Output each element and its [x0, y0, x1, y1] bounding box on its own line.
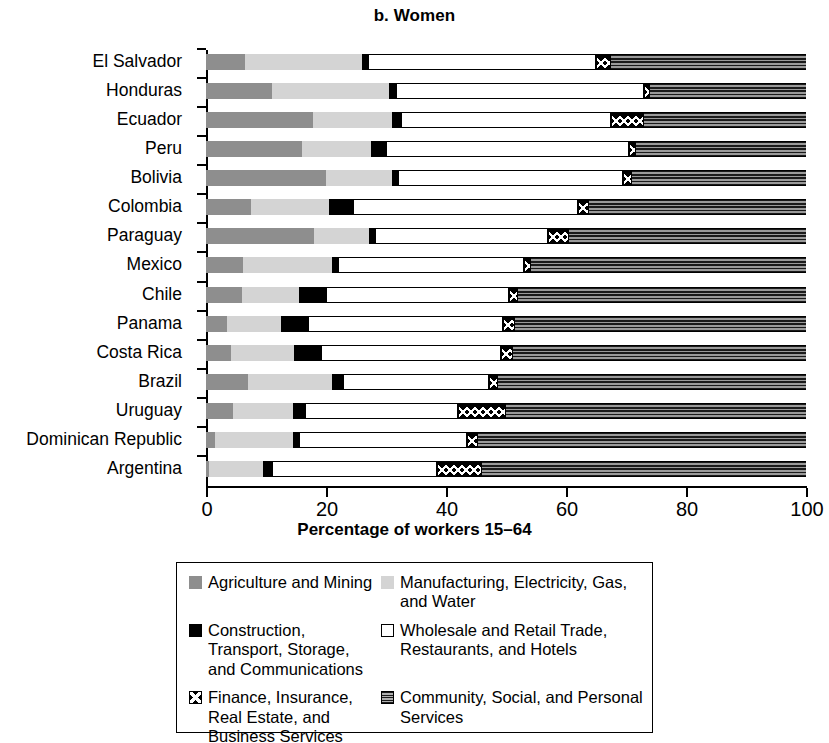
bar-row [206, 83, 806, 99]
y-axis-label-chile: Chile [142, 286, 182, 304]
bar-segment-manu [227, 316, 281, 332]
x-axis-tick [446, 488, 448, 497]
bar-segment-whole [321, 345, 501, 361]
legend-label: Community, Social, and Personal Services [400, 688, 643, 727]
y-axis-tick [197, 455, 206, 457]
bar-segment-cons [392, 112, 401, 128]
bar-segment-whole [272, 461, 437, 477]
bar-segment-fin [437, 461, 482, 477]
bar-segment-comm [611, 54, 806, 70]
y-axis-label-dominican-republic: Dominican Republic [26, 431, 182, 449]
bar-segment-fin [509, 287, 518, 303]
bar-segment-comm [478, 432, 806, 448]
legend-swatch-fin-icon [189, 691, 202, 704]
bar-segment-agri [206, 374, 248, 390]
bar-segment-agri [206, 170, 326, 186]
legend-swatch-agri-icon [189, 576, 202, 589]
legend-item-agri: Agriculture and Mining [189, 573, 375, 612]
bar-segment-comm [569, 228, 806, 244]
bar-segment-agri [206, 316, 227, 332]
bar-segment-manu [314, 228, 369, 244]
bar-segment-fin [623, 170, 632, 186]
legend-label: Finance, Insurance, Real Estate, and Bus… [208, 688, 375, 743]
bar-segment-whole [396, 83, 644, 99]
bar-segment-comm [518, 287, 806, 303]
legend-item-whole: Wholesale and Retail Trade, Restaurants,… [381, 621, 643, 679]
legend-swatch-cons-icon [189, 624, 202, 637]
bar-segment-manu [251, 199, 329, 215]
y-axis-label-brazil: Brazil [138, 373, 182, 391]
legend-item-fin: Finance, Insurance, Real Estate, and Bus… [189, 688, 375, 743]
bar-row [206, 228, 806, 244]
bar-row [206, 287, 806, 303]
y-axis-label-costa-rica: Costa Rica [96, 344, 182, 362]
y-axis-label-colombia: Colombia [108, 198, 182, 216]
x-axis-tick [806, 488, 808, 497]
y-axis-tick [197, 193, 206, 195]
bar-segment-comm [506, 403, 806, 419]
y-axis-tick [197, 164, 206, 166]
bar-row [206, 345, 806, 361]
bar-segment-manu [272, 83, 389, 99]
bar-segment-agri [206, 432, 215, 448]
bar-segment-manu [313, 112, 392, 128]
legend-item-comm: Community, Social, and Personal Services [381, 688, 643, 743]
bar-segment-comm [513, 345, 806, 361]
chart-figure: b. Women El SalvadorHondurasEcuadorPeruB… [0, 0, 829, 743]
bar-segment-fin [524, 257, 531, 273]
bar-row [206, 374, 806, 390]
bar-row [206, 54, 806, 70]
y-axis-tick [197, 251, 206, 253]
bar-segment-cons [329, 199, 353, 215]
y-axis-tick [197, 397, 206, 399]
bar-segment-manu [302, 141, 371, 157]
bar-segment-agri [206, 112, 313, 128]
legend-label: Manufacturing, Electricity, Gas, and Wat… [400, 573, 643, 612]
bar-segment-agri [206, 141, 302, 157]
x-axis-tick [566, 488, 568, 497]
bar-segment-manu [245, 54, 362, 70]
bar-row [206, 461, 806, 477]
bar-segment-manu [243, 257, 332, 273]
bar-segment-agri [206, 403, 233, 419]
bar-segment-whole [375, 228, 548, 244]
bar-row [206, 112, 806, 128]
bar-segment-cons [263, 461, 272, 477]
chart-title: b. Women [0, 6, 829, 26]
y-axis-label-peru: Peru [145, 140, 182, 158]
bar-segment-agri [206, 345, 231, 361]
bar-segment-cons [371, 141, 386, 157]
y-axis-tick [197, 339, 206, 341]
bar-row [206, 257, 806, 273]
bar-segment-comm [644, 112, 806, 128]
bar-row [206, 170, 806, 186]
bar-segment-manu [209, 461, 263, 477]
bar-segment-whole [338, 257, 524, 273]
bar-segment-whole [386, 141, 629, 157]
x-axis-tick-label: 0 [201, 498, 212, 521]
y-axis-label-mexico: Mexico [127, 256, 182, 274]
bar-segment-manu [233, 403, 293, 419]
y-axis-label-paraguay: Paraguay [107, 227, 182, 245]
bar-segment-agri [206, 228, 314, 244]
y-axis-tick [197, 368, 206, 370]
bar-segment-manu [326, 170, 392, 186]
legend-item-manu: Manufacturing, Electricity, Gas, and Wat… [381, 573, 643, 612]
bar-segment-agri [206, 199, 251, 215]
y-axis-tick [197, 310, 206, 312]
legend-label: Agriculture and Mining [208, 573, 372, 592]
bar-segment-fin [467, 432, 478, 448]
bar-segment-fin [596, 54, 611, 70]
y-axis-tick [197, 281, 206, 283]
x-axis-tick-label: 80 [676, 498, 698, 521]
bar-segment-comm [531, 257, 806, 273]
bar-segment-whole [308, 316, 503, 332]
bar-segment-whole [299, 432, 467, 448]
bar-segment-fin [629, 141, 636, 157]
bar-segment-fin [501, 345, 513, 361]
y-axis-label-el-salvador: El Salvador [93, 53, 183, 71]
bar-segment-manu [242, 287, 299, 303]
y-axis-tick [197, 426, 206, 428]
x-axis-line [206, 486, 807, 488]
bar-segment-cons [281, 316, 308, 332]
